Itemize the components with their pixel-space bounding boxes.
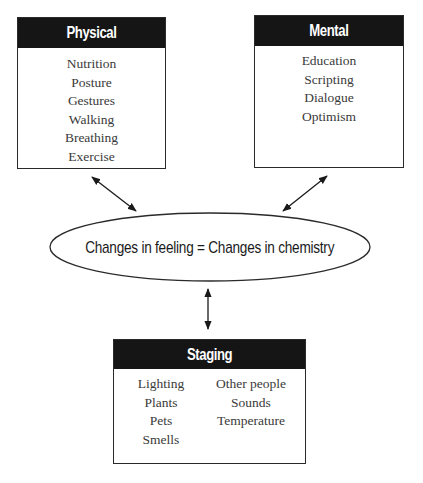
center-node: Changes in feeling = Changes in chemistr… (49, 213, 371, 282)
list-item: Other people (205, 375, 297, 394)
mental-box: Mental Education Scripting Dialogue Opti… (254, 15, 404, 168)
list-item: Breathing (18, 129, 165, 148)
list-item: Optimism (255, 108, 403, 127)
list-item: Dialogue (255, 89, 403, 108)
staging-left-column: Lighting Plants Pets Smells (126, 375, 196, 449)
list-item: Sounds (205, 394, 297, 413)
physical-arrow (92, 177, 136, 211)
physical-header: Physical (18, 18, 165, 48)
mental-items: Education Scripting Dialogue Optimism (255, 46, 403, 126)
list-item: Gestures (18, 92, 165, 111)
list-item: Exercise (18, 148, 165, 167)
list-item: Temperature (205, 412, 297, 431)
physical-title: Physical (67, 18, 117, 48)
mental-header: Mental (255, 16, 403, 46)
mental-title: Mental (309, 16, 348, 46)
list-item: Walking (18, 111, 165, 130)
list-item: Pets (126, 412, 196, 431)
list-item: Plants (126, 394, 196, 413)
staging-right-column: Other people Sounds Temperature (205, 375, 297, 449)
list-item: Smells (126, 431, 196, 450)
list-item: Lighting (126, 375, 196, 394)
list-item: Nutrition (18, 55, 165, 74)
physical-box: Physical Nutrition Posture Gestures Walk… (17, 17, 166, 169)
staging-header: Staging (114, 340, 305, 369)
mental-arrow (283, 176, 327, 211)
list-item: Scripting (255, 71, 403, 90)
list-item: Posture (18, 74, 165, 93)
center-text: Changes in feeling = Changes in chemistr… (85, 238, 334, 258)
staging-box: Staging Lighting Plants Pets Smells Othe… (113, 339, 306, 464)
list-item: Education (255, 52, 403, 71)
staging-items: Lighting Plants Pets Smells Other people… (114, 369, 305, 449)
staging-title: Staging (187, 340, 232, 369)
physical-items: Nutrition Posture Gestures Walking Breat… (18, 48, 165, 166)
